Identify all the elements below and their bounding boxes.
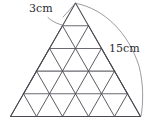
grid-line-left-7: [115, 94, 128, 117]
triangle-grid-svg: [0, 0, 151, 130]
triangle-outline: [11, 3, 141, 117]
leader-line-3cm: [48, 18, 64, 26]
horizontal-grid-lines: [24, 26, 128, 94]
dimension-label-top-side: 3cm: [29, 3, 53, 14]
geometry-figure: 3cm 15cm: [0, 0, 151, 130]
grid-line-right-7: [24, 94, 37, 117]
leader-arc-15cm: [77, 4, 143, 117]
grid-line-right-5: [50, 48, 89, 116]
grid-line-left-5: [63, 48, 102, 116]
dimension-label-full-side: 15cm: [109, 43, 140, 54]
